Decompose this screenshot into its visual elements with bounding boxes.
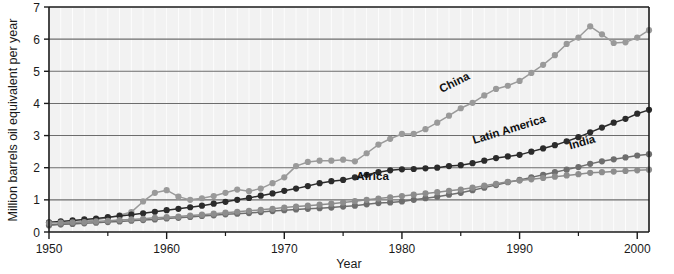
data-point — [305, 203, 311, 209]
data-point — [164, 207, 170, 213]
data-point — [234, 197, 240, 203]
y-tick-label: 5 — [33, 65, 40, 79]
data-point — [175, 206, 181, 212]
data-point — [387, 194, 393, 200]
data-point — [281, 188, 287, 194]
data-point — [505, 179, 511, 185]
data-point — [564, 167, 570, 173]
data-point — [493, 86, 499, 92]
data-point — [622, 154, 628, 160]
data-point — [375, 195, 381, 201]
data-point — [587, 23, 593, 29]
y-axis-title: Million barrels oil equivalent per year — [6, 19, 20, 222]
data-point — [269, 180, 275, 186]
data-point — [199, 212, 205, 218]
data-point — [481, 183, 487, 189]
y-tick-label: 7 — [33, 1, 40, 15]
data-point — [69, 219, 75, 225]
data-point — [599, 158, 605, 164]
data-point — [340, 199, 346, 205]
data-point — [387, 136, 393, 142]
data-point — [540, 175, 546, 181]
data-point — [422, 190, 428, 196]
data-point — [611, 156, 617, 162]
data-point — [552, 174, 558, 180]
data-point — [516, 177, 522, 183]
data-point — [575, 171, 581, 177]
x-tick-label: 1950 — [36, 242, 63, 256]
data-point — [187, 213, 193, 219]
y-tick-group: 01234567 — [33, 1, 49, 240]
data-point — [564, 41, 570, 47]
data-point — [187, 197, 193, 203]
data-point — [611, 120, 617, 126]
data-point — [328, 178, 334, 184]
data-point — [505, 83, 511, 89]
data-point — [611, 168, 617, 174]
data-point — [293, 204, 299, 210]
data-point — [446, 163, 452, 169]
data-point — [622, 168, 628, 174]
data-point — [364, 150, 370, 156]
plot-area-background — [49, 7, 649, 232]
data-point — [634, 152, 640, 158]
data-point — [575, 34, 581, 40]
data-point — [587, 170, 593, 176]
data-point — [634, 111, 640, 117]
data-point — [199, 195, 205, 201]
data-point — [269, 206, 275, 212]
data-point — [564, 172, 570, 178]
data-point — [528, 70, 534, 76]
data-point — [199, 203, 205, 209]
data-point — [634, 34, 640, 40]
data-point — [434, 120, 440, 126]
data-point — [164, 214, 170, 220]
data-point — [164, 187, 170, 193]
data-point — [140, 216, 146, 222]
x-tick-label: 2000 — [624, 242, 651, 256]
data-point — [516, 152, 522, 158]
x-tick-label: 1980 — [389, 242, 416, 256]
emissions-line-chart: 01234567 195019601970198019902000 ChinaL… — [0, 0, 674, 274]
data-point — [364, 197, 370, 203]
data-point — [258, 193, 264, 199]
data-point — [411, 166, 417, 172]
x-axis-title: Year — [336, 257, 361, 271]
data-point — [599, 169, 605, 175]
data-point — [634, 167, 640, 173]
data-point — [222, 199, 228, 205]
data-point — [352, 158, 358, 164]
data-point — [540, 62, 546, 68]
data-point — [222, 190, 228, 196]
data-point — [399, 193, 405, 199]
data-point — [611, 40, 617, 46]
data-point — [316, 158, 322, 164]
y-tick-label: 4 — [33, 97, 40, 111]
data-point — [58, 220, 64, 226]
data-point — [140, 198, 146, 204]
data-point — [399, 166, 405, 172]
data-point — [316, 180, 322, 186]
data-point — [246, 188, 252, 194]
data-point — [340, 157, 346, 163]
data-point — [411, 131, 417, 137]
data-point — [552, 52, 558, 58]
data-point — [211, 211, 217, 217]
data-point — [305, 159, 311, 165]
data-point — [540, 145, 546, 151]
data-point — [493, 155, 499, 161]
y-tick-label: 1 — [33, 193, 40, 207]
plot-background-group — [49, 7, 649, 232]
x-tick-label: 1990 — [506, 242, 533, 256]
data-point — [599, 124, 605, 130]
data-point — [175, 213, 181, 219]
data-point — [575, 164, 581, 170]
data-point — [587, 161, 593, 167]
data-point — [293, 163, 299, 169]
data-point — [446, 188, 452, 194]
data-point — [128, 216, 134, 222]
data-point — [258, 186, 264, 192]
data-point — [152, 190, 158, 196]
data-point — [552, 142, 558, 148]
data-point — [246, 195, 252, 201]
